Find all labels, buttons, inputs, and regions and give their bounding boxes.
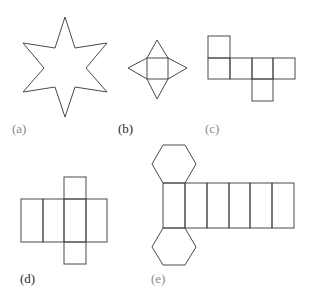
figure-label-e: (e)	[151, 272, 165, 285]
hexagonal-prism-net-figure	[152, 145, 294, 265]
cube-net-figure	[208, 36, 295, 101]
figures-canvas	[0, 0, 312, 304]
figure-label-d: (d)	[20, 272, 35, 285]
pyramid-net-figure	[128, 40, 187, 99]
figure-label-b: (b)	[118, 122, 133, 135]
figure-label-a: (a)	[12, 122, 26, 135]
prism-net-figure	[21, 177, 107, 264]
figure-label-c: (c)	[205, 122, 219, 135]
star-figure	[23, 17, 107, 117]
